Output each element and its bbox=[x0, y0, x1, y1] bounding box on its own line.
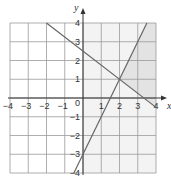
y-tick-label: −2 bbox=[70, 131, 80, 141]
x-tick-label: 1 bbox=[99, 101, 104, 111]
y-tick-label: −4 bbox=[70, 168, 80, 178]
x-axis-label: x bbox=[166, 100, 171, 111]
origin-label: 0 bbox=[75, 98, 80, 108]
y-tick-label: 4 bbox=[75, 18, 80, 28]
y-axis-arrow-icon bbox=[81, 8, 86, 14]
x-tick-label: 3 bbox=[135, 101, 140, 111]
coordinate-graph: −4−3−2−112344321−1−2−3−40xy bbox=[0, 0, 171, 178]
y-tick-label: 2 bbox=[75, 56, 80, 66]
x-tick-label: 4 bbox=[153, 101, 158, 111]
x-tick-label: −2 bbox=[39, 101, 49, 111]
x-tick-label: 2 bbox=[117, 101, 122, 111]
x-tick-label: −1 bbox=[58, 101, 68, 111]
y-tick-label: 3 bbox=[75, 37, 80, 47]
y-tick-label: −1 bbox=[70, 112, 80, 122]
y-tick-label: −3 bbox=[70, 149, 80, 159]
y-axis-label: y bbox=[73, 2, 79, 13]
y-tick-label: 1 bbox=[75, 74, 80, 84]
x-tick-label: −4 bbox=[3, 101, 13, 111]
x-tick-label: −3 bbox=[21, 101, 31, 111]
